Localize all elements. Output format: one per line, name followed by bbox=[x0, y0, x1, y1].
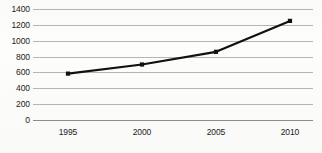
x-tick-label: 1995 bbox=[48, 128, 88, 137]
data-point-marker bbox=[288, 19, 292, 23]
data-point-marker bbox=[66, 72, 70, 76]
series-markers bbox=[66, 19, 292, 76]
series-line bbox=[68, 21, 290, 74]
line-chart: 1400 1200 1000 800 600 400 200 0 1995 20… bbox=[0, 0, 322, 153]
x-tick-label: 2005 bbox=[196, 128, 236, 137]
data-point-marker bbox=[214, 50, 218, 54]
data-point-marker bbox=[140, 62, 144, 66]
x-tick-label: 2000 bbox=[122, 128, 162, 137]
x-tick-label: 2010 bbox=[270, 128, 310, 137]
